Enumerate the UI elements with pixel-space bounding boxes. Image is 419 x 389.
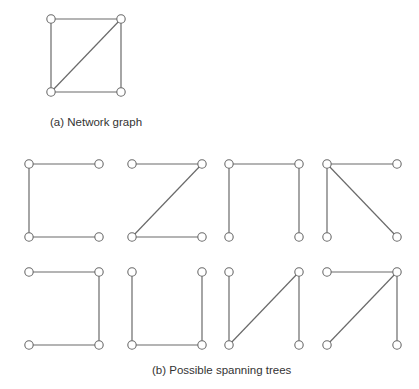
tree-node <box>393 341 401 349</box>
spanning-tree-8 <box>323 268 401 349</box>
tree-node <box>198 341 206 349</box>
tree-node <box>323 341 331 349</box>
tree-node <box>198 160 206 168</box>
spanning-tree-4 <box>323 160 401 241</box>
graph-edge <box>51 19 121 92</box>
graph-node <box>47 15 55 23</box>
tree-edge <box>132 164 202 237</box>
spanning-tree-3 <box>225 160 303 241</box>
graph-node <box>117 15 125 23</box>
tree-node <box>323 160 331 168</box>
spanning-trees-caption: (b) Possible spanning trees <box>152 364 291 376</box>
tree-node <box>225 268 233 276</box>
tree-node <box>225 341 233 349</box>
tree-node <box>295 160 303 168</box>
spanning-tree-2 <box>128 160 206 241</box>
tree-node <box>25 160 33 168</box>
spanning-tree-7 <box>225 268 303 349</box>
tree-node <box>128 341 136 349</box>
tree-node <box>225 233 233 241</box>
tree-edge <box>327 164 397 237</box>
tree-node <box>323 233 331 241</box>
tree-edge <box>229 272 299 345</box>
tree-node <box>198 268 206 276</box>
tree-edge <box>327 272 397 345</box>
tree-node <box>128 233 136 241</box>
graph-node <box>117 88 125 96</box>
tree-node <box>95 341 103 349</box>
tree-node <box>393 233 401 241</box>
tree-node <box>128 268 136 276</box>
tree-node <box>295 233 303 241</box>
spanning-tree-1 <box>25 160 103 241</box>
tree-node <box>393 160 401 168</box>
tree-node <box>295 268 303 276</box>
tree-node <box>295 341 303 349</box>
spanning-tree-5 <box>25 268 103 349</box>
tree-node <box>25 268 33 276</box>
tree-node <box>323 268 331 276</box>
tree-node <box>25 233 33 241</box>
tree-node <box>198 233 206 241</box>
tree-node <box>393 268 401 276</box>
tree-node <box>95 233 103 241</box>
network-graph-caption: (a) Network graph <box>50 116 142 128</box>
tree-node <box>95 268 103 276</box>
spanning-tree-6 <box>128 268 206 349</box>
tree-node <box>95 160 103 168</box>
network-graph <box>47 15 125 96</box>
tree-node <box>128 160 136 168</box>
diagram-canvas <box>0 0 419 389</box>
tree-node <box>225 160 233 168</box>
tree-node <box>25 341 33 349</box>
graph-node <box>47 88 55 96</box>
